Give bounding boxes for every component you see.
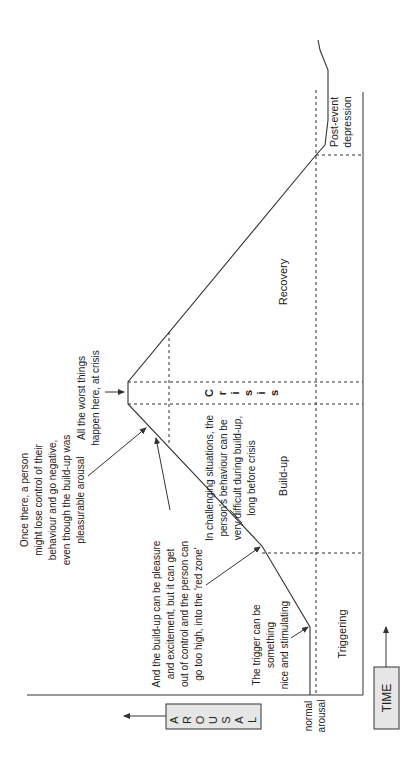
svg-text:C: C [203, 389, 215, 397]
svg-text:i: i [229, 391, 241, 394]
annotation-worst: All the worst things happen here, at cri… [76, 350, 101, 446]
annotation-pleasure: And the build-up can be pleasure and exc… [151, 540, 204, 687]
svg-text:In challenging situations, the: In challenging situations, the [204, 414, 215, 541]
phase-triggering: Triggering [336, 609, 348, 658]
svg-text:And the build-up can be pleasu: And the build-up can be pleasure [151, 540, 162, 687]
phase-crisis: C r i s i s [203, 389, 280, 397]
arousal-label: A R O U S A L [168, 715, 258, 724]
svg-text:happen here, at crisis: happen here, at crisis [90, 350, 101, 446]
svg-text:A: A [233, 716, 245, 724]
svg-text:out of control and the person: out of control and the person can [179, 541, 190, 687]
svg-text:pleasurable arousal: pleasurable arousal [75, 456, 86, 543]
svg-text:long before crisis: long before crisis [246, 440, 257, 516]
arrow-pleasure [206, 547, 260, 585]
svg-text:even though the build-up was: even though the build-up was [61, 435, 72, 566]
annotation-challenging: In challenging situations, the person's … [204, 414, 257, 541]
svg-text:person's behaviour can be: person's behaviour can be [218, 419, 229, 536]
phase-post-event-2: depression [341, 96, 353, 148]
svg-text:A: A [168, 716, 180, 724]
arrow-red-zone [156, 438, 170, 510]
svg-text:and excitement, but it can get: and excitement, but it can get [165, 548, 176, 679]
svg-text:go too high, into the 'red zon: go too high, into the 'red zone' [193, 547, 204, 680]
svg-text:R: R [181, 716, 193, 724]
annotation-once-there: Once there, a person might lose control … [19, 435, 86, 566]
normal-arousal-label-2: arousal [316, 700, 327, 733]
annotation-trigger: The trigger can be something nice and st… [251, 601, 290, 689]
svg-text:s: s [268, 390, 280, 396]
svg-text:i: i [255, 391, 267, 394]
svg-text:something: something [265, 622, 276, 668]
svg-text:S: S [220, 716, 232, 723]
svg-text:U: U [207, 716, 219, 724]
normal-arousal-label: normal [303, 701, 314, 732]
phase-buildup: Build-up [277, 456, 289, 496]
svg-text:nice and stimulating: nice and stimulating [279, 601, 290, 689]
svg-text:All the worst things: All the worst things [76, 356, 87, 440]
phase-post-event: Post-event [328, 97, 340, 147]
arrow-trigger [291, 627, 308, 638]
time-label: TIME [380, 684, 394, 713]
svg-text:L: L [246, 717, 258, 723]
arousal-diagram: A R O U S A L TIME normal arousal Trigge… [0, 0, 414, 783]
phase-recovery: Recovery [277, 258, 289, 305]
svg-text:Once there, a person: Once there, a person [19, 453, 30, 547]
svg-text:very difficult during build-up: very difficult during build-up, [232, 416, 243, 540]
svg-text:might lose control of their: might lose control of their [33, 443, 44, 555]
svg-text:The trigger can be: The trigger can be [251, 604, 262, 686]
svg-text:O: O [194, 715, 206, 724]
svg-text:r: r [216, 390, 228, 395]
svg-text:s: s [242, 390, 254, 396]
svg-text:behaviour and go negative,: behaviour and go negative, [47, 440, 58, 561]
